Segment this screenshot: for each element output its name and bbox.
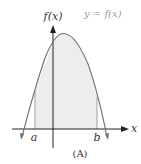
x-axis-arrow-icon <box>121 126 129 132</box>
shaded-area-region <box>35 34 97 129</box>
x-axis-label: x <box>131 122 138 135</box>
curve-right-arrow-icon <box>105 133 109 140</box>
curve-label: y = f(x) <box>83 8 122 19</box>
y-axis-arrow-icon <box>50 25 56 33</box>
right-bound-label: b <box>93 131 100 144</box>
y-axis-label: f(x) <box>43 10 63 23</box>
left-bound-label: a <box>31 131 38 144</box>
curve-left-arrow-icon <box>20 133 24 140</box>
figure-caption: (A) <box>72 148 87 159</box>
area-under-curve-figure: f(x) x y = f(x) a b (A) <box>0 0 141 164</box>
